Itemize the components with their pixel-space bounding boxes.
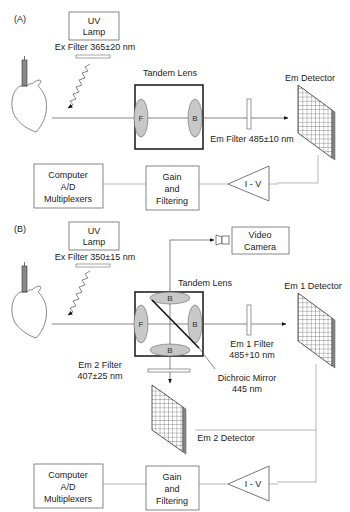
svg-text:445 nm: 445 nm xyxy=(232,384,262,394)
computer-a: Computer A/D Multiplexers xyxy=(34,164,103,208)
em1-detector-label: Em 1 Detector xyxy=(284,281,342,291)
video-camera: Video Camera xyxy=(216,227,289,254)
em1-detector xyxy=(298,293,332,366)
em-filter-a-label: Em Filter 485±10 nm xyxy=(210,134,293,144)
computer-b: Computer A/D Multiplexers xyxy=(34,464,103,508)
uv-lamp-b: UV Lamp xyxy=(69,222,119,250)
svg-text:B: B xyxy=(192,114,197,123)
svg-text:Multiplexers: Multiplexers xyxy=(44,494,93,504)
svg-text:UV: UV xyxy=(88,16,101,26)
svg-text:Multiplexers: Multiplexers xyxy=(44,194,93,204)
em1-filter xyxy=(247,305,251,335)
svg-text:Gain: Gain xyxy=(162,472,181,482)
em2-detector xyxy=(152,385,183,452)
gain-filtering-a: Gain and Filtering xyxy=(146,166,199,210)
tandem-lens-b-label: Tandem Lens xyxy=(178,278,233,288)
gain-filtering-b: Gain and Filtering xyxy=(146,466,199,510)
svg-text:485+10 nm: 485+10 nm xyxy=(229,350,274,360)
ex-filter-a-label: Ex Filter 365±20 nm xyxy=(55,42,135,52)
panel-a-label: (A) xyxy=(14,14,26,24)
panel-a: (A) UV Lamp Ex Filter 365±20 nm Tandem L… xyxy=(12,12,335,210)
panel-b-label: (B) xyxy=(14,224,26,234)
svg-text:and: and xyxy=(164,184,179,194)
em1-filter-label: Em 1 Filter xyxy=(230,339,274,349)
em2-filter-label: Em 2 Filter xyxy=(78,360,122,370)
em-detector-a xyxy=(298,85,332,158)
svg-text:A/D: A/D xyxy=(60,482,76,492)
tandem-lens-a: F B xyxy=(134,85,203,149)
em-detector-a-label: Em Detector xyxy=(285,73,335,83)
ex-filter-b xyxy=(76,264,110,267)
svg-text:Filtering: Filtering xyxy=(156,196,188,206)
svg-text:Camera: Camera xyxy=(244,242,276,252)
amplifier-b: I - V xyxy=(228,466,269,501)
svg-text:B: B xyxy=(167,294,172,303)
svg-text:Lamp: Lamp xyxy=(83,27,106,37)
svg-text:Video: Video xyxy=(249,230,272,240)
excitation-light-a xyxy=(68,64,90,108)
svg-text:Gain: Gain xyxy=(162,172,181,182)
svg-text:F: F xyxy=(139,114,144,123)
svg-text:B: B xyxy=(167,346,172,355)
svg-text:Filtering: Filtering xyxy=(156,496,188,506)
em-filter-a xyxy=(247,99,251,129)
svg-text:UV: UV xyxy=(88,226,101,236)
svg-text:Computer: Computer xyxy=(48,170,88,180)
svg-text:I - V: I - V xyxy=(245,179,262,189)
svg-text:Lamp: Lamp xyxy=(83,237,106,247)
svg-text:Computer: Computer xyxy=(48,470,88,480)
heart-b xyxy=(12,262,47,338)
svg-text:A/D: A/D xyxy=(60,182,76,192)
ex-filter-a xyxy=(76,55,110,58)
ex-filter-b-label: Ex Filter 350±15 nm xyxy=(55,252,135,262)
em2-filter xyxy=(148,369,190,372)
panel-b: (B) UV Lamp Ex Filter 350±15 nm Video Ca… xyxy=(12,222,342,510)
svg-text:407±25 nm: 407±25 nm xyxy=(78,371,123,381)
tandem-lens-a-label: Tandem Lens xyxy=(143,68,198,78)
camera-lens-icon xyxy=(216,235,222,245)
optical-mapping-diagram: (A) UV Lamp Ex Filter 365±20 nm Tandem L… xyxy=(0,0,350,512)
dichroic-mirror-label: Dichroic Mirror xyxy=(218,373,277,383)
tandem-lens-b: F B B B xyxy=(134,292,203,356)
heart-a xyxy=(12,56,47,132)
svg-text:B: B xyxy=(192,320,197,329)
svg-text:I - V: I - V xyxy=(245,479,262,489)
svg-text:F: F xyxy=(139,320,144,329)
amplifier-a: I - V xyxy=(228,166,269,201)
em2-detector-label: Em 2 Detector xyxy=(197,433,255,443)
svg-text:and: and xyxy=(164,484,179,494)
uv-lamp-a: UV Lamp xyxy=(69,12,119,40)
excitation-light-b xyxy=(68,271,90,315)
